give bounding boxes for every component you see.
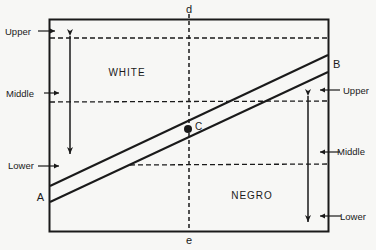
label-d: d: [186, 3, 192, 15]
region-label-negro: NEGRO: [231, 190, 273, 201]
region-label-white: WHITE: [108, 67, 145, 78]
label-point-a: A: [37, 191, 45, 203]
label-e: e: [186, 234, 192, 246]
right-label-lower: Lower: [340, 211, 366, 222]
negro-middle-divider: [130, 164, 328, 165]
left-label-upper: Upper: [5, 26, 31, 37]
white-middle-divider: [50, 101, 328, 102]
caste-class-diagram: d e WHITE NEGRO A B C Upper Middle Lower…: [0, 0, 376, 250]
label-point-c: C: [195, 121, 202, 132]
caste-line-upper: [50, 55, 328, 186]
point-c-dot: [184, 125, 192, 133]
right-label-upper: Upper: [343, 85, 369, 96]
left-label-lower: Lower: [8, 160, 34, 171]
left-label-middle: Middle: [6, 88, 34, 99]
right-label-middle: Middle: [337, 146, 365, 157]
label-point-b: B: [333, 58, 340, 70]
